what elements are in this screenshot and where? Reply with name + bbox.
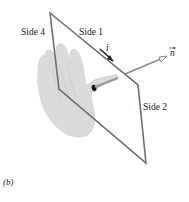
right-hand-icon bbox=[38, 44, 119, 137]
right-hand-rule-figure: Side 4 Side 1 Side 2 i n (b) bbox=[0, 0, 189, 202]
side-2-label: Side 2 bbox=[143, 103, 167, 113]
current-label: i bbox=[106, 44, 109, 54]
normal-vector-label: n bbox=[170, 49, 175, 59]
normal-vector-arrow bbox=[95, 56, 167, 87]
side-1-label: Side 1 bbox=[79, 28, 103, 38]
side-4-label: Side 4 bbox=[21, 28, 45, 38]
panel-label: (b) bbox=[3, 178, 14, 187]
